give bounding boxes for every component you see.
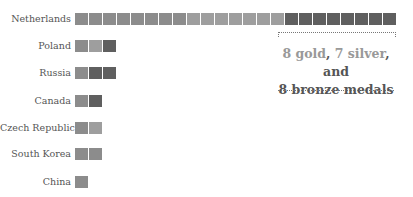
silver-medal-box [271, 13, 284, 25]
bronze-medal-box [341, 13, 354, 25]
silver-medal-box [229, 13, 242, 25]
gold-medal-box [75, 122, 88, 134]
gold-medal-box [75, 67, 88, 79]
chart-row: South Korea [0, 147, 413, 160]
silver-medal-box [215, 13, 228, 25]
chart-row: Netherlands [0, 12, 413, 25]
bronze-medal-box [89, 67, 102, 79]
bronze-medal-box [299, 13, 312, 25]
gold-medal-box [75, 95, 88, 107]
gold-medal-box [75, 13, 88, 25]
silver-medal-box [187, 13, 200, 25]
bronze-medal-box [313, 13, 326, 25]
country-label: Netherlands [0, 12, 71, 25]
bronze-medal-box [89, 95, 102, 107]
country-label: Canada [0, 94, 71, 107]
gold-medal-box [75, 148, 88, 160]
gold-medal-box [145, 13, 158, 25]
medal-boxes [75, 147, 103, 160]
medal-boxes [75, 121, 103, 134]
medal-boxes [75, 12, 397, 25]
gold-medal-box [159, 13, 172, 25]
gold-medal-box [75, 176, 88, 188]
bronze-medal-box [285, 13, 298, 25]
gold-medal-box [173, 13, 186, 25]
annotation-silver: 7 silver [335, 46, 385, 61]
bronze-medal-box [327, 13, 340, 25]
gold-medal-box [131, 13, 144, 25]
annotation-rule [278, 90, 394, 91]
silver-medal-box [201, 13, 214, 25]
annotation-bracket [278, 32, 396, 37]
silver-medal-box [243, 13, 256, 25]
gold-medal-box [103, 13, 116, 25]
country-label: China [0, 175, 71, 188]
country-label: South Korea [0, 147, 71, 160]
medal-boxes [75, 94, 103, 107]
chart-row: Czech Republic [0, 121, 413, 134]
bronze-medal-box [355, 13, 368, 25]
medal-boxes [75, 175, 89, 188]
bronze-medal-box [103, 40, 116, 52]
medal-boxes [75, 66, 117, 79]
bronze-medal-box [103, 67, 116, 79]
annotation-sep: , [326, 46, 335, 61]
country-label: Czech Republic [0, 121, 71, 134]
country-label: Poland [0, 39, 71, 52]
gold-medal-box [89, 13, 102, 25]
silver-medal-box [89, 122, 102, 134]
gold-medal-box [89, 148, 102, 160]
annotation-gold: 8 gold [282, 46, 326, 61]
silver-medal-box [89, 40, 102, 52]
gold-medal-box [117, 13, 130, 25]
bronze-medal-box [369, 13, 382, 25]
chart-row: China [0, 175, 413, 188]
country-label: Russia [0, 66, 71, 79]
gold-medal-box [75, 40, 88, 52]
medal-boxes [75, 39, 117, 52]
bronze-medal-box [383, 13, 396, 25]
silver-medal-box [257, 13, 270, 25]
